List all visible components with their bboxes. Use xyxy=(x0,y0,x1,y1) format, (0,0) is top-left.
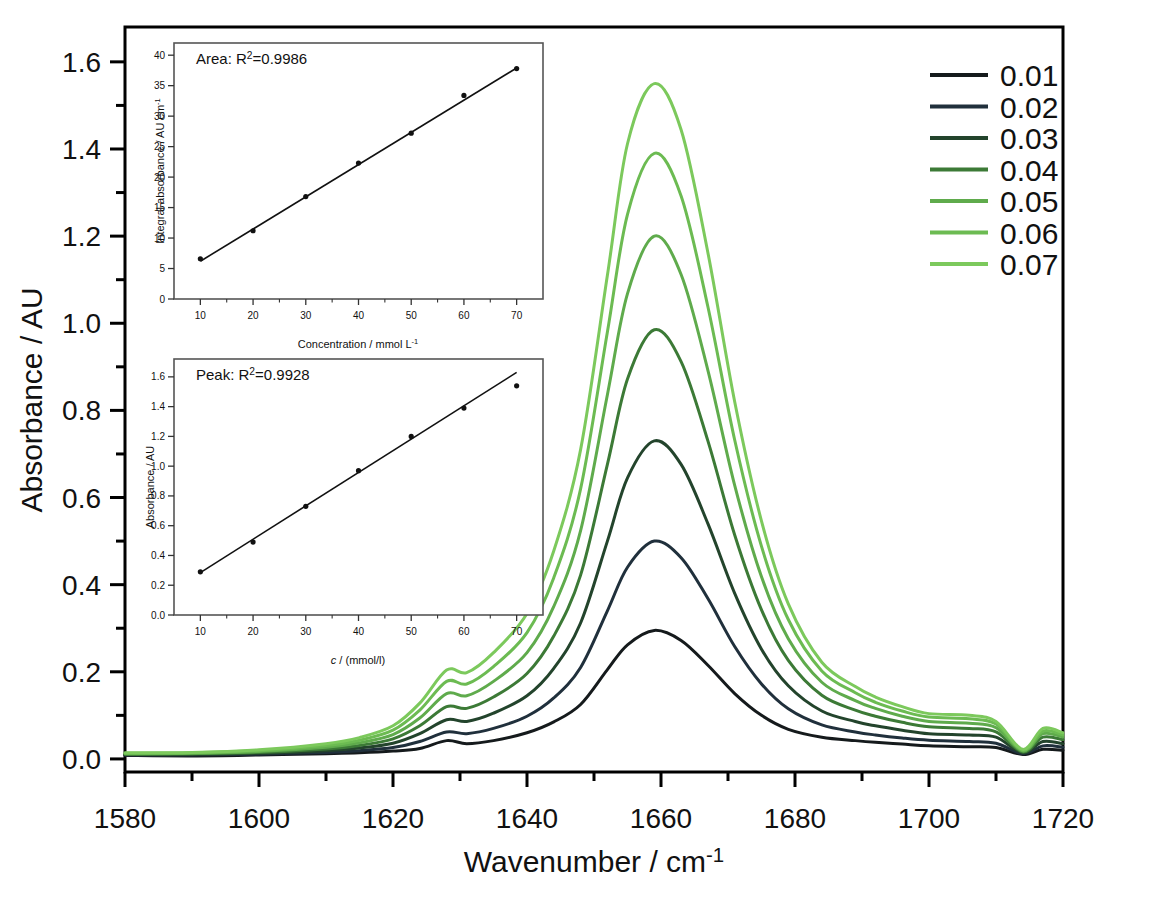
inset-area-y-title: Integral absorbance / AU cm-1 xyxy=(153,98,166,243)
inset-data-point xyxy=(303,504,308,509)
x-tick-label: 1700 xyxy=(898,803,960,834)
inset-data-point xyxy=(198,256,203,261)
x-tick-label: 1580 xyxy=(94,803,156,834)
inset-x-tick-label: 40 xyxy=(353,310,365,321)
legend-label: 0.07 xyxy=(1000,248,1058,281)
inset-data-point xyxy=(514,66,519,71)
y-tick-label: 0.0 xyxy=(62,744,101,775)
inset-data-point xyxy=(303,194,308,199)
inset-peak-frame xyxy=(174,359,543,615)
inset-data-point xyxy=(409,434,414,439)
inset-data-point xyxy=(250,228,255,233)
inset-data-point xyxy=(514,383,519,388)
y-tick-label: 1.2 xyxy=(62,221,101,252)
inset-data-point xyxy=(356,468,361,473)
inset-x-tick-label: 50 xyxy=(406,310,418,321)
inset-x-tick-label: 10 xyxy=(195,310,207,321)
inset-data-point xyxy=(356,160,361,165)
x-tick-label: 1720 xyxy=(1032,803,1094,834)
inset-peak-x-title: c / (mmol/l) xyxy=(331,654,385,666)
y-tick-label: 1.6 xyxy=(62,47,101,78)
inset-y-tick-label: 1.2 xyxy=(151,431,165,442)
inset-y-tick-label: 1.4 xyxy=(151,401,165,412)
inset-y-tick-label: 5 xyxy=(159,263,165,274)
inset-x-tick-label: 10 xyxy=(195,626,207,637)
inset-y-tick-label: 0.0 xyxy=(151,610,165,621)
y-axis-title: Absorbance / AU xyxy=(15,287,48,512)
y-tick-label: 0.8 xyxy=(62,395,101,426)
y-tick-label: 1.0 xyxy=(62,308,101,339)
inset-x-tick-label: 50 xyxy=(406,626,418,637)
spectra-figure: 158016001620164016601680170017200.00.20.… xyxy=(0,0,1157,898)
inset-y-tick-label: 0.4 xyxy=(151,550,165,561)
x-tick-label: 1620 xyxy=(362,803,424,834)
inset-x-tick-label: 70 xyxy=(511,310,523,321)
legend-label: 0.01 xyxy=(1000,59,1058,92)
legend-label: 0.02 xyxy=(1000,91,1058,124)
inset-data-point xyxy=(461,93,466,98)
inset-x-tick-label: 30 xyxy=(300,310,312,321)
inset-data-point xyxy=(198,569,203,574)
legend-label: 0.03 xyxy=(1000,122,1058,155)
inset-x-tick-label: 20 xyxy=(248,310,260,321)
inset-data-point xyxy=(250,539,255,544)
inset-y-tick-label: 1.6 xyxy=(151,371,165,382)
y-tick-label: 0.6 xyxy=(62,483,101,514)
inset-peak-y-title: Absorbance / AU xyxy=(144,446,156,529)
inset-x-tick-label: 40 xyxy=(353,626,365,637)
legend-label: 0.06 xyxy=(1000,217,1058,250)
y-tick-label: 0.4 xyxy=(62,570,101,601)
inset-y-tick-label: 35 xyxy=(154,80,166,91)
x-axis-title: Wavenumber / cm-1 xyxy=(464,844,724,878)
inset-x-tick-label: 70 xyxy=(511,626,523,637)
x-tick-label: 1660 xyxy=(630,803,692,834)
inset-x-tick-label: 60 xyxy=(458,626,470,637)
legend-label: 0.05 xyxy=(1000,185,1058,218)
inset-area-title: Area: R2=0.9986 xyxy=(196,50,307,67)
y-tick-label: 0.2 xyxy=(62,657,101,688)
x-tick-label: 1600 xyxy=(228,803,290,834)
figure-root: 158016001620164016601680170017200.00.20.… xyxy=(0,0,1157,898)
inset-x-tick-label: 30 xyxy=(300,626,312,637)
inset-y-tick-label: 0 xyxy=(159,294,165,305)
inset-data-point xyxy=(409,131,414,136)
inset-x-tick-label: 60 xyxy=(458,310,470,321)
inset-x-tick-label: 20 xyxy=(248,626,260,637)
y-tick-label: 1.4 xyxy=(62,134,101,165)
x-tick-label: 1640 xyxy=(496,803,558,834)
x-tick-label: 1680 xyxy=(764,803,826,834)
legend-label: 0.04 xyxy=(1000,154,1058,187)
inset-data-point xyxy=(461,406,466,411)
inset-y-tick-label: 0.2 xyxy=(151,580,165,591)
inset-area-frame xyxy=(174,43,543,299)
inset-y-tick-label: 40 xyxy=(154,50,166,61)
inset-area-x-title: Concentration / mmol L-1 xyxy=(298,337,418,350)
